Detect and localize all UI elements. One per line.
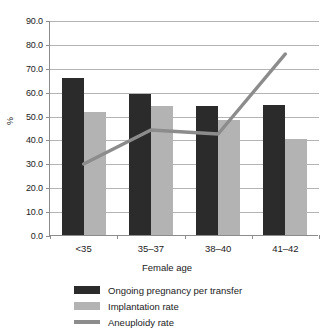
x-axis-tick	[50, 235, 51, 239]
y-axis-tick-label: 30.0	[26, 159, 43, 169]
x-axis-tick	[319, 235, 320, 239]
x-axis-tick-label: 41–42	[272, 243, 298, 254]
y-axis-tick-label: 60.0	[26, 88, 43, 98]
legend-item: Ongoing pregnancy per transfer	[74, 282, 324, 298]
y-axis-tick-label: 80.0	[26, 40, 43, 50]
x-axis-tick	[185, 235, 186, 239]
y-axis-title: %	[5, 117, 15, 125]
legend-bar-swatch	[74, 302, 100, 310]
x-axis-tick	[117, 235, 118, 239]
y-axis-tick-label: 20.0	[26, 183, 43, 193]
y-axis-tick-label: 90.0	[26, 16, 43, 26]
legend-item-label: Implantation rate	[108, 301, 179, 312]
x-axis-tick-label: 35–37	[138, 243, 164, 254]
chart-figure: % 0.010.020.030.040.050.060.070.080.090.…	[0, 0, 334, 336]
y-axis-tick-label: 0.0	[31, 231, 43, 241]
plot-area: 0.010.020.030.040.050.060.070.080.090.0 …	[49, 21, 318, 236]
chart-legend: Ongoing pregnancy per transferImplantati…	[74, 282, 324, 330]
legend-line-swatch	[74, 320, 100, 324]
y-axis-tick-label: 40.0	[26, 135, 43, 145]
legend-item-label: Ongoing pregnancy per transfer	[108, 285, 242, 296]
legend-item: Aneuploidy rate	[74, 314, 324, 330]
x-axis-title: Female age	[0, 262, 334, 273]
x-axis-tick-label: <35	[76, 243, 92, 254]
y-axis-tick-label: 70.0	[26, 64, 43, 74]
line-series-layer	[50, 21, 319, 236]
x-axis-tick	[252, 235, 253, 239]
line-series-path	[84, 54, 286, 164]
legend-item: Implantation rate	[74, 298, 324, 314]
y-axis-tick-label: 50.0	[26, 112, 43, 122]
y-axis-tick-label: 10.0	[26, 207, 43, 217]
legend-item-label: Aneuploidy rate	[108, 317, 174, 328]
legend-bar-swatch	[74, 286, 100, 294]
x-axis-tick-label: 38–40	[205, 243, 231, 254]
